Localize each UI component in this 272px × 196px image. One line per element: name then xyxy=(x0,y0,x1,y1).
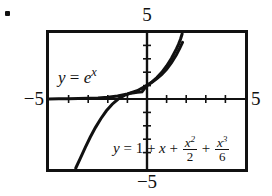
eq-poly-frac2-numerator: x3 xyxy=(215,133,229,150)
axis-label-left: −5 xyxy=(10,89,44,108)
figure-container: 5 −5 −5 5 xyxy=(0,0,272,196)
eq-exp-exponent: x xyxy=(91,65,96,79)
annotation-exponential-equation: y = ex xyxy=(58,64,97,86)
eq-exp-lhs: y xyxy=(58,68,66,87)
eq-poly-lhs: y xyxy=(113,140,120,156)
axis-label-bottom: −5 xyxy=(46,172,248,191)
eq-poly-frac1-numerator: x2 xyxy=(183,133,197,150)
eq-poly-frac1-denominator: 2 xyxy=(183,150,197,163)
eq-poly-fraction-x3-over-6: x3 6 xyxy=(215,133,229,163)
eq-exp-equals: = xyxy=(70,68,80,87)
eq-poly-term-1: 1 xyxy=(136,140,144,156)
eq-poly-equals: = xyxy=(123,140,131,156)
eq-poly-frac2-denominator: 6 xyxy=(215,150,229,163)
axis-label-top: 5 xyxy=(46,5,248,24)
eq-poly-plus-2: + xyxy=(170,140,178,156)
eq-poly-frac2-num-exp: 3 xyxy=(223,134,228,144)
bullet-marker xyxy=(5,11,10,16)
eq-poly-plus-3: + xyxy=(202,140,210,156)
annotation-polynomial-equation: y = 1 + x + x2 2 + x3 6 xyxy=(113,134,230,164)
eq-poly-plus-1: + xyxy=(147,140,155,156)
eq-poly-fraction-x2-over-2: x2 2 xyxy=(183,133,197,163)
axis-label-right: 5 xyxy=(251,89,261,108)
eq-poly-frac1-num-exp: 2 xyxy=(191,134,196,144)
eq-poly-term-2: x xyxy=(159,140,166,156)
